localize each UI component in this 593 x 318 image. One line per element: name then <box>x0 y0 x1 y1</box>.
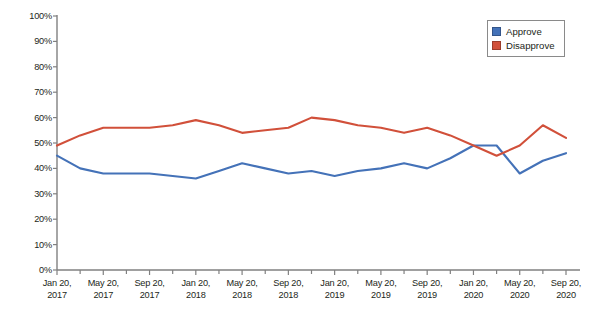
x-tick-label-line1: Sep 20, <box>273 278 303 288</box>
legend-item[interactable]: Disapprove <box>492 39 559 52</box>
legend-swatch-icon <box>492 41 501 50</box>
x-tick-label-line1: Jan 20, <box>320 278 349 288</box>
x-tick-label-line1: Jan 20, <box>459 278 488 288</box>
x-tick-label-line1: Sep 20, <box>551 278 581 288</box>
x-tick-label-line1: May 20, <box>504 278 535 288</box>
x-tick-label: Sep 20,2020 <box>536 278 593 301</box>
x-tick-label-line1: May 20, <box>365 278 396 288</box>
x-tick-label-line1: Jan 20, <box>43 278 72 288</box>
x-tick-label-line1: Sep 20, <box>412 278 442 288</box>
legend-swatch-icon <box>492 27 501 36</box>
x-tick-label-line1: Sep 20, <box>134 278 164 288</box>
legend-label: Approve <box>506 26 542 37</box>
x-tick-label-line2: 2020 <box>536 290 593 302</box>
legend-item[interactable]: Approve <box>492 25 559 38</box>
x-tick-label-line1: Jan 20, <box>181 278 210 288</box>
chart-legend: ApproveDisapprove <box>487 20 565 57</box>
x-tick-label-line1: May 20, <box>88 278 119 288</box>
x-tick-label-line1: May 20, <box>226 278 257 288</box>
legend-label: Disapprove <box>506 40 555 51</box>
approval-rating-line-chart: Percentage approving Trump's performance… <box>0 0 593 318</box>
